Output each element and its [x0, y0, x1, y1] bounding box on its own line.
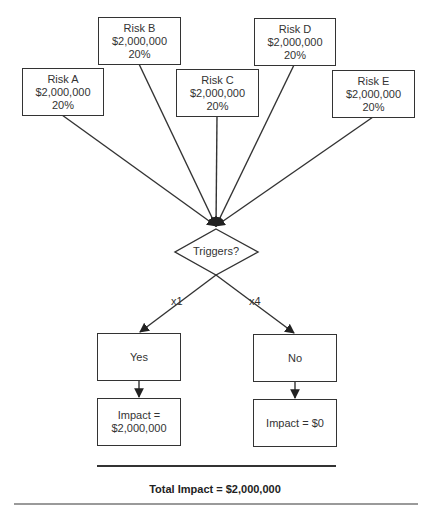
- impact-text-line1: Impact = $0: [266, 417, 324, 430]
- risk-name: Risk E: [358, 75, 390, 88]
- bottom-rule: [14, 503, 418, 505]
- risk-name: Risk B: [124, 22, 156, 35]
- risk-amount: $2,000,000: [190, 87, 245, 100]
- risk-amount: $2,000,000: [112, 35, 167, 48]
- impact-text-line1: Impact =: [118, 409, 161, 422]
- risk-amount: $2,000,000: [35, 86, 90, 99]
- risk-amount: $2,000,000: [346, 88, 401, 101]
- risk-name: Risk D: [279, 23, 311, 36]
- impact-text-line2: $2,000,000: [111, 422, 166, 435]
- outcome-label: No: [288, 352, 302, 365]
- impact-yes-box: Impact = $2,000,000: [97, 398, 181, 446]
- no-multiplier-label: x4: [249, 295, 261, 307]
- connector-risk-a: [62, 115, 216, 226]
- risk-box-c: Risk C $2,000,000 20%: [176, 69, 259, 117]
- risk-probability: 20%: [52, 99, 74, 112]
- impact-no-box: Impact = $0: [253, 399, 337, 447]
- risk-box-d: Risk D $2,000,000 20%: [254, 18, 336, 66]
- connector-risk-c: [216, 116, 217, 226]
- risk-name: Risk C: [201, 74, 233, 87]
- risk-box-b: Risk B $2,000,000 20%: [98, 17, 181, 65]
- risk-box-a: Risk A $2,000,000 20%: [22, 68, 104, 116]
- risk-probability: 20%: [362, 101, 384, 114]
- risk-probability: 20%: [284, 49, 306, 62]
- risk-probability: 20%: [128, 48, 150, 61]
- outcome-label: Yes: [130, 351, 148, 364]
- connector-risk-e: [216, 117, 373, 226]
- total-impact-label: Total Impact = $2,000,000: [0, 483, 430, 495]
- risk-amount: $2,000,000: [267, 36, 322, 49]
- sum-divider-line: [97, 465, 336, 467]
- yes-multiplier-label: x1: [171, 295, 183, 307]
- risk-name: Risk A: [47, 73, 78, 86]
- outcome-yes-box: Yes: [97, 333, 181, 381]
- risk-probability: 20%: [206, 100, 228, 113]
- outcome-no-box: No: [253, 334, 337, 382]
- risk-box-e: Risk E $2,000,000 20%: [332, 70, 415, 118]
- decision-label: Triggers?: [174, 245, 258, 257]
